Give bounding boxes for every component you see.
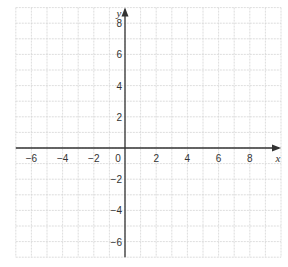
y-tick-label: 2 (116, 112, 122, 123)
x-axis-label: x (275, 152, 281, 164)
x-tick-label: −6 (26, 153, 38, 164)
grid-lines (16, 8, 281, 258)
y-tick-label: 4 (116, 81, 122, 92)
y-tick-label: −6 (111, 237, 123, 248)
x-tick-label: −2 (88, 153, 100, 164)
x-tick-label: 8 (247, 153, 253, 164)
y-tick-label: −2 (111, 174, 123, 185)
y-tick-label: 8 (116, 18, 122, 29)
x-tick-label: 6 (216, 153, 222, 164)
x-tick-label: −4 (57, 153, 69, 164)
x-axis-arrow-icon (272, 145, 281, 152)
tick-labels: −6−4−202468−6−4−22468xy (26, 7, 281, 248)
x-tick-label: 4 (185, 153, 191, 164)
y-tick-label: −4 (111, 205, 123, 216)
y-tick-label: 6 (116, 49, 122, 60)
origin-label: 0 (115, 153, 121, 164)
x-tick-label: 2 (153, 153, 159, 164)
y-axis-arrow-icon (122, 8, 129, 17)
coordinate-plane: −6−4−202468−6−4−22468xy (0, 0, 288, 267)
y-axis-label: y (116, 7, 122, 19)
